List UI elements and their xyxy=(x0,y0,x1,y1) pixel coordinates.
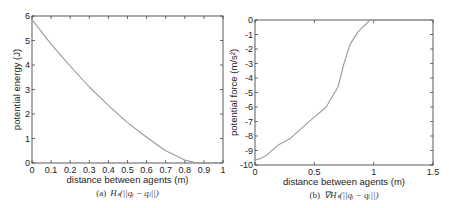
x-axis-label: distance between agents (m) xyxy=(283,176,405,187)
figure-caption: (b)∇Hₛ(||qᵢ − qⱼ||) xyxy=(310,190,379,200)
figure-a: 00.10.20.30.40.50.60.70.80.910123456dist… xyxy=(0,0,225,208)
chart-a-svg: 00.10.20.30.40.50.60.70.80.910123456dist… xyxy=(0,0,225,208)
y-tick-label: -9 xyxy=(245,146,253,156)
y-tick-label: 1 xyxy=(25,134,30,144)
y-tick-label: -6 xyxy=(245,102,253,112)
figure-caption: (a)Hₛ(||qᵢ − qⱼ||) xyxy=(96,188,158,198)
y-tick-label: -8 xyxy=(245,131,253,141)
y-axis-label: potential force (m/s²) xyxy=(228,49,239,136)
plot-frame xyxy=(32,16,223,163)
y-axis-label: potential energy (J) xyxy=(11,49,22,130)
series-line xyxy=(32,20,223,163)
y-tick-label: 2 xyxy=(25,109,30,119)
series-line xyxy=(255,20,433,160)
x-axis-label: distance between agents (m) xyxy=(67,174,189,185)
y-tick-label: 3 xyxy=(25,85,30,95)
x-tick-label: 0.9 xyxy=(198,165,211,175)
y-tick-label: 6 xyxy=(25,11,30,21)
caption-label: (b) xyxy=(310,190,321,200)
y-tick-label: 4 xyxy=(25,60,30,70)
caption-math: Hₛ(||qᵢ − qⱼ||) xyxy=(109,188,158,198)
x-tick-label: 0 xyxy=(29,165,34,175)
y-tick-label: -7 xyxy=(245,117,253,127)
figure-b: 00.511.50-1-2-3-4-5-6-7-8-9-10distance b… xyxy=(225,0,449,208)
x-tick-label: 1.5 xyxy=(427,167,440,177)
y-tick-label: 5 xyxy=(25,36,30,46)
y-tick-label: -5 xyxy=(245,88,253,98)
caption-math: ∇Hₛ(||qᵢ − qⱼ||) xyxy=(324,190,378,200)
y-tick-label: -3 xyxy=(245,59,253,69)
x-tick-label: 0.1 xyxy=(45,165,58,175)
y-tick-label: -4 xyxy=(245,73,253,83)
y-tick-label: -10 xyxy=(240,160,253,170)
caption-label: (a) xyxy=(96,188,106,198)
y-tick-label: 0 xyxy=(248,15,253,25)
y-tick-label: -1 xyxy=(245,30,253,40)
y-tick-label: -2 xyxy=(245,44,253,54)
y-tick-label: 0 xyxy=(25,158,30,168)
x-tick-label: 0 xyxy=(252,167,257,177)
chart-b-svg: 00.511.50-1-2-3-4-5-6-7-8-9-10distance b… xyxy=(225,0,449,208)
